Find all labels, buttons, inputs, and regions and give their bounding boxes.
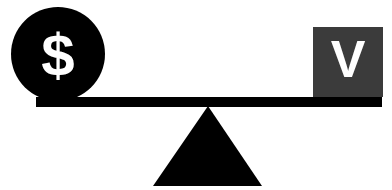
money-coin: $ (11, 7, 105, 101)
balance-scale-diagram: $ V (0, 0, 392, 190)
dollar-sign-label: $ (41, 22, 74, 89)
value-box: V (313, 27, 383, 97)
fulcrum-triangle (153, 106, 262, 186)
v-label: V (331, 30, 366, 88)
seesaw-beam (36, 97, 382, 107)
